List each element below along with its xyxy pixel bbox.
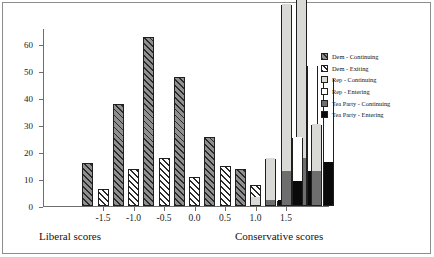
bar-segment: [266, 158, 275, 200]
stacked-bar: [281, 5, 292, 206]
legend-label: Tea Party - Continuing: [332, 100, 390, 107]
y-tick: 40: [39, 99, 43, 100]
legend-swatch: [321, 88, 328, 95]
bar: [174, 77, 185, 206]
legend-swatch: [321, 100, 328, 107]
bar-segment: [293, 137, 302, 182]
y-tick: 30: [39, 126, 43, 127]
y-tick: 0: [39, 207, 43, 208]
bar: [159, 158, 170, 206]
stacked-bar: [292, 138, 303, 207]
figure-frame: 0102030405060 -1.5-1.0-0.50.00.51.01.5 L…: [2, 2, 431, 254]
legend-swatch: [321, 65, 328, 72]
x-tick: [103, 207, 104, 211]
stacked-bar: [311, 125, 322, 206]
bar-segment: [251, 197, 260, 205]
bar: [220, 166, 231, 206]
legend-label: Dem - Continuing: [332, 53, 379, 60]
x-tick-label: 0.0: [189, 213, 201, 223]
stacked-bar: [265, 159, 276, 206]
y-tick: 20: [39, 153, 43, 154]
x-tick-label: 1.0: [250, 213, 262, 223]
legend-label: Tea Party - Entering: [332, 111, 384, 118]
chart-legend: Dem - ContinuingDem - ExitingRep - Conti…: [321, 51, 433, 121]
legend-label: Rep - Entering: [332, 88, 370, 95]
y-tick-label: 40: [24, 94, 33, 104]
x-axis-caption-right: Conservative scores: [235, 230, 323, 242]
legend-swatch: [321, 76, 328, 83]
y-tick-label: 30: [24, 121, 33, 131]
bar: [82, 163, 93, 206]
legend-item: Tea Party - Entering: [321, 109, 433, 120]
x-tick: [164, 207, 165, 211]
legend-label: Rep - Continuing: [332, 76, 376, 83]
y-tick: 10: [39, 180, 43, 181]
legend-swatch: [321, 111, 328, 118]
bar-segment: [282, 4, 291, 171]
x-tick-label: 0.5: [219, 213, 231, 223]
y-tick: 50: [39, 72, 43, 73]
bar: [128, 169, 139, 206]
plot-area: 0102030405060 -1.5-1.0-0.50.00.51.01.5: [43, 29, 328, 207]
x-tick: [195, 207, 196, 211]
legend-item: Dem - Exiting: [321, 63, 433, 74]
bar-segment: [324, 162, 333, 205]
y-tick-label: 0: [29, 202, 34, 212]
y-axis-line: [43, 29, 44, 207]
bar: [143, 37, 154, 206]
y-tick: 60: [39, 45, 43, 46]
x-tick-label: -1.5: [95, 213, 110, 223]
y-tick-label: 50: [24, 67, 33, 77]
bar-segment: [282, 171, 291, 205]
x-tick: [256, 207, 257, 211]
y-tick-label: 10: [24, 175, 33, 185]
x-tick: [286, 207, 287, 211]
x-tick: [134, 207, 135, 211]
legend-item: Rep - Continuing: [321, 74, 433, 85]
x-tick: [225, 207, 226, 211]
bar: [235, 169, 246, 206]
legend-swatch: [321, 53, 328, 60]
y-tick-label: 60: [24, 40, 33, 50]
bar-segment: [312, 124, 321, 171]
legend-label: Dem - Exiting: [332, 65, 369, 72]
legend-item: Tea Party - Continuing: [321, 98, 433, 109]
bar: [98, 189, 109, 206]
bar-segment: [266, 200, 275, 205]
legend-item: Rep - Entering: [321, 86, 433, 97]
legend-item: Dem - Continuing: [321, 51, 433, 62]
x-tick-label: 1.5: [280, 213, 292, 223]
bar-segment: [297, 0, 306, 158]
bar-segment: [312, 171, 321, 205]
bar-segment: [293, 181, 302, 205]
x-axis-caption-left: Liberal scores: [39, 230, 101, 242]
bar: [113, 104, 124, 206]
bar: [204, 137, 215, 206]
x-tick-label: -0.5: [156, 213, 171, 223]
bar: [189, 177, 200, 206]
stacked-bar: [250, 198, 261, 206]
y-tick-label: 20: [24, 148, 33, 158]
x-tick-label: -1.0: [126, 213, 141, 223]
